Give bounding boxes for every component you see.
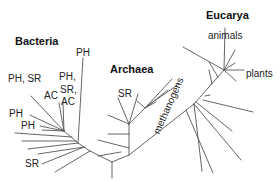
- label-bacteria-sr-bottom: SR: [25, 158, 39, 169]
- domain-label-archaea: Archaea: [110, 63, 153, 75]
- label-bacteria-sr-2: SR,: [60, 84, 77, 95]
- label-bacteria-ph-sr: PH, SR: [8, 73, 41, 84]
- label-bacteria-ac-1: AC: [44, 90, 58, 101]
- label-eucarya-animals: animals: [208, 30, 242, 41]
- branch-ph-3: [30, 115, 64, 131]
- label-bacteria-ph-2: PH,: [59, 71, 76, 82]
- branch-sr-bottom: [42, 147, 84, 164]
- label-archaea-sr: SR: [118, 88, 132, 99]
- label-bacteria-ac-2: AC: [61, 96, 75, 107]
- label-bacteria-ph-4: PH: [21, 120, 35, 131]
- branch-ph-sr: [31, 96, 64, 131]
- bacteria-root-branch: [90, 151, 112, 162]
- label-eucarya-plants: plants: [246, 68, 273, 79]
- phylogenetic-tree: [0, 0, 279, 183]
- branch-ph-top: [78, 58, 83, 143]
- label-bacteria-ph-top: PH: [76, 47, 90, 58]
- domain-label-bacteria: Bacteria: [15, 35, 58, 47]
- archaea-stem: [112, 155, 129, 162]
- branch-archaea-sr: [137, 101, 145, 108]
- domain-label-eucarya: Eucarya: [206, 9, 249, 21]
- label-bacteria-ph-3: PH: [9, 108, 23, 119]
